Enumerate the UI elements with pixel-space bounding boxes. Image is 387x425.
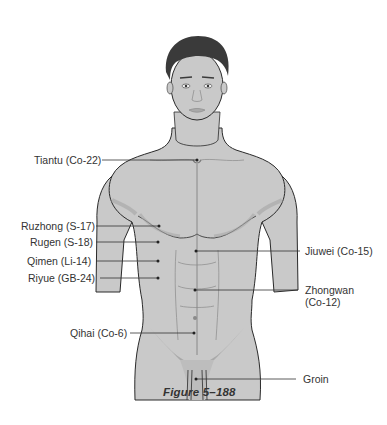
figure-caption: Figure 5–188 bbox=[163, 386, 236, 398]
dot-riyue bbox=[157, 277, 160, 280]
label-zhongwan: Zhongwan bbox=[305, 284, 354, 296]
dot-tiantu bbox=[196, 159, 199, 162]
dot-jiuwei bbox=[195, 250, 198, 253]
dot-qimen bbox=[157, 260, 160, 263]
head bbox=[166, 36, 229, 120]
torso-illustration bbox=[0, 0, 387, 425]
dot-rugen bbox=[157, 241, 160, 244]
label-qihai: Qihai (Co-6) bbox=[70, 327, 127, 339]
body-outline bbox=[96, 128, 298, 400]
label-tiantu: Tiantu (Co-22) bbox=[34, 154, 101, 166]
label-groin: Groin bbox=[303, 373, 329, 385]
dot-qihai bbox=[193, 332, 196, 335]
label-rugen: Rugen (S-18) bbox=[30, 236, 93, 248]
label-jiuwei: Jiuwei (Co-15) bbox=[305, 245, 373, 257]
label-zhongwan-code: (Co-12) bbox=[305, 296, 341, 308]
dot-ruzhong bbox=[158, 225, 161, 228]
label-riyue: Riyue (GB-24) bbox=[28, 272, 95, 284]
dot-groin bbox=[195, 378, 198, 381]
dot-zhongwan bbox=[194, 289, 197, 292]
label-qimen: Qimen (Li-14) bbox=[27, 255, 91, 267]
label-ruzhong: Ruzhong (S-17) bbox=[21, 220, 95, 232]
acupuncture-figure: Tiantu (Co-22) Ruzhong (S-17) Rugen (S-1… bbox=[0, 0, 387, 425]
